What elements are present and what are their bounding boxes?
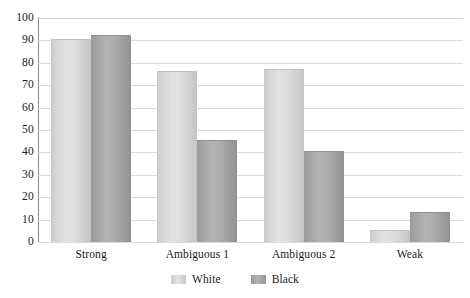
legend-item-black[interactable]: Black: [251, 274, 299, 286]
bar-black-ambiguous-1: [197, 140, 237, 242]
bar-chart: 0102030405060708090100 StrongAmbiguous 1…: [0, 0, 470, 298]
y-tick-label-40: 40: [0, 147, 34, 159]
x-label-strong: Strong: [75, 246, 106, 262]
plot-area: [38, 18, 463, 242]
y-tick-label-0: 0: [0, 236, 34, 248]
y-tick-label-20: 20: [0, 191, 34, 203]
y-tick-label-30: 30: [0, 169, 34, 181]
y-axis-tick-labels: 0102030405060708090100: [0, 18, 34, 242]
x-label-ambiguous-2: Ambiguous 2: [272, 246, 335, 262]
x-label-weak: Weak: [397, 246, 423, 262]
y-tick-label-80: 80: [0, 57, 34, 69]
bar-black-ambiguous-2: [304, 151, 344, 242]
bar-black-weak: [410, 212, 450, 242]
x-label-ambiguous-1: Ambiguous 1: [166, 246, 229, 262]
y-tick-label-90: 90: [0, 35, 34, 47]
bar-white-weak: [370, 230, 410, 242]
chart-legend: WhiteBlack: [0, 274, 470, 286]
bar-white-ambiguous-1: [157, 71, 197, 242]
y-tick-label-100: 100: [0, 12, 34, 24]
legend-label-black: Black: [272, 274, 299, 286]
y-tick-label-50: 50: [0, 124, 34, 136]
bar-black-strong: [91, 35, 131, 242]
y-tick-label-70: 70: [0, 79, 34, 91]
x-axis-line: [38, 242, 463, 243]
bar-white-strong: [51, 39, 91, 242]
legend-item-white[interactable]: White: [171, 274, 221, 286]
x-axis-category-labels: StrongAmbiguous 1Ambiguous 2Weak: [38, 246, 463, 266]
legend-swatch-black-icon: [251, 275, 266, 284]
y-tick-label-10: 10: [0, 214, 34, 226]
y-tick-label-60: 60: [0, 102, 34, 114]
legend-label-white: White: [192, 274, 221, 286]
bar-white-ambiguous-2: [264, 69, 304, 242]
bars-layer: [38, 18, 463, 242]
legend-swatch-white-icon: [171, 275, 186, 284]
